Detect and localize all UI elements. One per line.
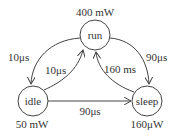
- edge-run-to-sleep: [110, 38, 149, 84]
- run-power: 400 mW: [76, 6, 115, 18]
- state-sleep-label: sleep: [136, 95, 159, 107]
- state-run: run: [80, 20, 110, 50]
- edge-run-to-idle-label: 10μs: [8, 51, 29, 63]
- state-idle: idle: [18, 86, 48, 116]
- state-run-label: run: [88, 29, 103, 41]
- state-sleep: sleep: [132, 86, 162, 116]
- idle-power: 50 mW: [16, 118, 49, 130]
- edge-idle-to-sleep-label: 90μs: [79, 105, 100, 117]
- sleep-power: 160μW: [131, 118, 164, 130]
- state-idle-label: idle: [25, 95, 42, 107]
- edge-idle-to-run-label: 10μs: [45, 64, 66, 76]
- state-diagram: run 400 mW idle 50 mW sleep 160μW 10μs 1…: [0, 0, 179, 137]
- edge-run-to-sleep-label: 90μs: [146, 51, 167, 63]
- edge-run-to-idle: [31, 38, 80, 84]
- edge-sleep-to-run-label: 160 ms: [104, 63, 136, 75]
